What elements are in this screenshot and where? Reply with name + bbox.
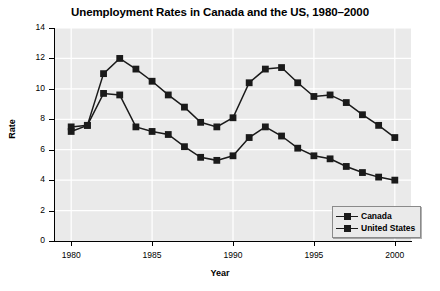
data-point[interactable] [391, 134, 398, 141]
data-point[interactable] [294, 145, 301, 152]
data-point[interactable] [311, 152, 318, 159]
data-point[interactable] [230, 114, 237, 121]
x-tick-label: 1990 [211, 250, 255, 260]
y-tick-label: 6 [13, 144, 45, 154]
x-tick-mark [314, 241, 315, 246]
data-point[interactable] [343, 163, 350, 170]
data-point[interactable] [246, 134, 253, 141]
y-tick-mark [49, 241, 55, 242]
data-point[interactable] [359, 111, 366, 118]
data-point[interactable] [213, 157, 220, 164]
y-axis-title: Rate [7, 99, 17, 159]
y-tick-mark [49, 28, 55, 29]
chart-title: Unemployment Rates in Canada and the US,… [0, 6, 440, 18]
data-point[interactable] [278, 64, 285, 71]
data-point[interactable] [197, 154, 204, 161]
data-point[interactable] [359, 169, 366, 176]
data-point[interactable] [149, 78, 156, 85]
y-tick-mark [49, 211, 55, 212]
y-tick-label: 0 [13, 235, 45, 245]
data-point[interactable] [213, 123, 220, 130]
y-tick-label: 4 [13, 174, 45, 184]
data-point[interactable] [181, 143, 188, 150]
data-point[interactable] [149, 128, 156, 135]
data-point[interactable] [262, 66, 269, 73]
data-point[interactable] [84, 122, 91, 129]
data-point[interactable] [375, 174, 382, 181]
data-point[interactable] [197, 119, 204, 126]
data-point[interactable] [165, 92, 172, 99]
data-point[interactable] [327, 92, 334, 99]
x-tick-mark [395, 241, 396, 246]
x-tick-mark [152, 241, 153, 246]
x-tick-mark [233, 241, 234, 246]
chart-legend: Canada United States [332, 206, 421, 238]
legend-line-marker-icon [336, 223, 358, 233]
data-point[interactable] [133, 66, 140, 73]
data-point[interactable] [100, 90, 107, 97]
legend-line-marker-icon [336, 211, 358, 221]
data-point[interactable] [375, 122, 382, 129]
data-point[interactable] [294, 79, 301, 86]
legend-item-united-states[interactable]: United States [336, 222, 415, 234]
data-point[interactable] [116, 55, 123, 62]
legend-label-canada: Canada [361, 211, 392, 221]
x-tick-label: 1985 [130, 250, 174, 260]
data-point[interactable] [246, 79, 253, 86]
y-tick-label: 14 [13, 22, 45, 32]
data-point[interactable] [165, 131, 172, 138]
y-tick-mark [49, 180, 55, 181]
legend-item-canada[interactable]: Canada [336, 210, 415, 222]
x-axis-title: Year [0, 268, 440, 278]
data-point[interactable] [116, 92, 123, 99]
data-point[interactable] [311, 93, 318, 100]
y-tick-mark [49, 150, 55, 151]
x-tick-mark [71, 241, 72, 246]
data-point[interactable] [278, 133, 285, 140]
data-point[interactable] [68, 128, 75, 135]
x-tick-label: 1980 [49, 250, 93, 260]
y-tick-label: 12 [13, 52, 45, 62]
data-point[interactable] [133, 123, 140, 130]
data-point[interactable] [327, 155, 334, 162]
y-tick-mark [49, 119, 55, 120]
y-tick-label: 10 [13, 83, 45, 93]
y-tick-label: 8 [13, 113, 45, 123]
y-tick-label: 2 [13, 205, 45, 215]
data-point[interactable] [343, 99, 350, 106]
data-point[interactable] [230, 152, 237, 159]
legend-label-united-states: United States [361, 223, 415, 233]
data-point[interactable] [181, 104, 188, 111]
data-point[interactable] [262, 123, 269, 130]
data-point[interactable] [100, 70, 107, 77]
x-tick-label: 2000 [373, 250, 417, 260]
y-tick-mark [49, 89, 55, 90]
y-tick-mark [49, 58, 55, 59]
unemployment-rates-chart: Unemployment Rates in Canada and the US,… [0, 0, 440, 291]
data-point[interactable] [391, 177, 398, 184]
x-tick-label: 1995 [292, 250, 336, 260]
